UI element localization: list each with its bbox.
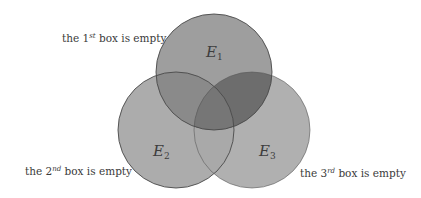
set-label-e3: E3	[259, 144, 276, 159]
annotation-rest: box is empty	[96, 32, 167, 44]
annotation-second-box-empty: the 2nd box is empty	[25, 166, 132, 177]
set-label-e2: E2	[153, 144, 170, 159]
set-label-e2-name: E	[153, 142, 164, 160]
set-label-e1: E1	[206, 45, 223, 60]
annotation-rest: box is empty	[335, 167, 406, 179]
annotation-prefix: the	[300, 167, 321, 179]
annotation-third-box-empty: the 3rd box is empty	[300, 168, 406, 179]
set-label-e1-name: E	[206, 43, 217, 61]
annotation-first-box-empty: the 1st box is empty	[62, 33, 166, 44]
set-label-e3-name: E	[259, 142, 270, 160]
annotation-ordinal-suffix: rd	[327, 167, 335, 175]
set-label-e2-subscript: 2	[164, 151, 170, 161]
set-label-e3-subscript: 3	[270, 151, 276, 161]
annotation-prefix: the	[62, 32, 83, 44]
annotation-prefix: the	[25, 165, 46, 177]
set-label-e1-subscript: 1	[217, 52, 223, 62]
annotation-ordinal-suffix: nd	[52, 165, 61, 173]
annotation-rest: box is empty	[61, 165, 132, 177]
